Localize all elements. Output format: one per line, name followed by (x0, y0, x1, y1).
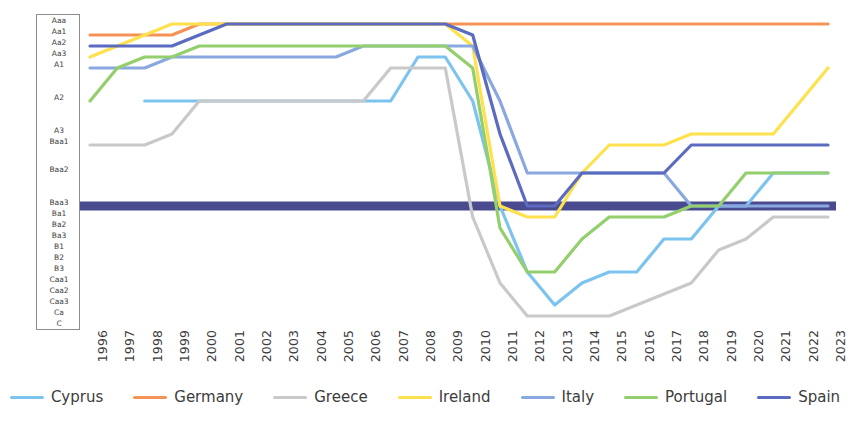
y-axis-tick-a3: A3 (37, 127, 81, 135)
x-axis-tick-2017: 2017 (669, 330, 684, 362)
y-axis-tick-baa2: Baa2 (37, 166, 81, 174)
y-axis-tick-baa1: Baa1 (37, 138, 81, 146)
x-axis-tick-1999: 1999 (177, 330, 192, 362)
series-line-ireland (90, 24, 828, 217)
legend-item-spain[interactable]: Spain (757, 388, 840, 406)
legend-swatch-italy (521, 396, 555, 399)
legend-label-spain: Spain (798, 388, 840, 406)
y-axis-tick-baa3: Baa3 (37, 199, 81, 207)
chart-legend: CyprusGermanyGreeceIrelandItalyPortugalS… (0, 380, 850, 414)
legend-item-germany[interactable]: Germany (133, 388, 243, 406)
x-axis-tick-2002: 2002 (259, 330, 274, 362)
y-axis-tick-caa2: Caa2 (37, 287, 81, 295)
legend-item-italy[interactable]: Italy (521, 388, 595, 406)
y-axis-tick-b1: B1 (37, 243, 81, 251)
x-axis-tick-2009: 2009 (450, 330, 465, 362)
plot-area (80, 14, 836, 330)
y-axis-tick-b2: B2 (37, 254, 81, 262)
x-axis-tick-2004: 2004 (314, 330, 329, 362)
x-axis-tick-2021: 2021 (778, 330, 793, 362)
x-axis-tick-2019: 2019 (724, 330, 739, 362)
chart-container: AaaAa1Aa2Aa3A1A2A3Baa1Baa2Baa3Ba1Ba2Ba3B… (0, 0, 850, 421)
legend-swatch-cyprus (10, 396, 44, 399)
x-axis-tick-2018: 2018 (696, 330, 711, 362)
x-axis-tick-1997: 1997 (122, 330, 137, 362)
legend-swatch-portugal (624, 396, 658, 399)
y-axis-tick-aaa: Aaa (37, 17, 81, 25)
x-axis-tick-2001: 2001 (232, 330, 247, 362)
x-axis-tick-2000: 2000 (204, 330, 219, 362)
legend-item-portugal[interactable]: Portugal (624, 388, 727, 406)
y-axis-tick-caa1: Caa1 (37, 276, 81, 284)
legend-swatch-ireland (398, 396, 432, 399)
y-axis-tick-aa3: Aa3 (37, 50, 81, 58)
legend-label-italy: Italy (562, 388, 595, 406)
x-axis-tick-2008: 2008 (423, 330, 438, 362)
x-axis-tick-2012: 2012 (532, 330, 547, 362)
y-axis-tick-ca: Ca (37, 309, 81, 317)
y-axis-rating-scale: AaaAa1Aa2Aa3A1A2A3Baa1Baa2Baa3Ba1Ba2Ba3B… (36, 14, 80, 330)
legend-swatch-germany (133, 396, 167, 399)
legend-item-ireland[interactable]: Ireland (398, 388, 491, 406)
y-axis-tick-b3: B3 (37, 265, 81, 273)
y-axis-tick-aa1: Aa1 (37, 28, 81, 36)
x-axis-tick-2011: 2011 (505, 330, 520, 362)
x-axis-tick-2010: 2010 (478, 330, 493, 362)
y-axis-tick-ba3: Ba3 (37, 232, 81, 240)
y-axis-tick-caa3: Caa3 (37, 298, 81, 306)
legend-swatch-spain (757, 396, 791, 399)
series-line-spain (90, 24, 828, 206)
legend-item-cyprus[interactable]: Cyprus (10, 388, 103, 406)
legend-label-cyprus: Cyprus (51, 388, 103, 406)
line-chart-svg (80, 14, 836, 330)
y-axis-tick-ba1: Ba1 (37, 210, 81, 218)
x-axis-tick-2015: 2015 (614, 330, 629, 362)
y-axis-tick-a1: A1 (37, 61, 81, 69)
x-axis-tick-2003: 2003 (286, 330, 301, 362)
y-axis-tick-aa2: Aa2 (37, 39, 81, 47)
legend-label-germany: Germany (174, 388, 243, 406)
x-axis-tick-2022: 2022 (806, 330, 821, 362)
series-line-cyprus (145, 57, 828, 305)
x-axis-tick-2014: 2014 (587, 330, 602, 362)
x-axis-tick-2006: 2006 (368, 330, 383, 362)
series-line-greece (90, 68, 828, 316)
x-axis-tick-2007: 2007 (396, 330, 411, 362)
x-axis-year-labels: 1996199719981999200020012002200320042005… (80, 330, 836, 382)
legend-label-greece: Greece (314, 388, 367, 406)
y-axis-tick-c: C (37, 320, 81, 328)
x-axis-tick-2005: 2005 (341, 330, 356, 362)
x-axis-tick-1998: 1998 (150, 330, 165, 362)
x-axis-tick-2020: 2020 (751, 330, 766, 362)
x-axis-tick-2023: 2023 (833, 330, 848, 362)
x-axis-tick-2013: 2013 (560, 330, 575, 362)
legend-item-greece[interactable]: Greece (273, 388, 367, 406)
y-axis-tick-ba2: Ba2 (37, 221, 81, 229)
legend-label-ireland: Ireland (439, 388, 491, 406)
x-axis-tick-2016: 2016 (642, 330, 657, 362)
legend-label-portugal: Portugal (665, 388, 727, 406)
legend-swatch-greece (273, 396, 307, 399)
x-axis-tick-1996: 1996 (95, 330, 110, 362)
y-axis-tick-a2: A2 (37, 94, 81, 102)
series-line-italy (90, 46, 828, 206)
